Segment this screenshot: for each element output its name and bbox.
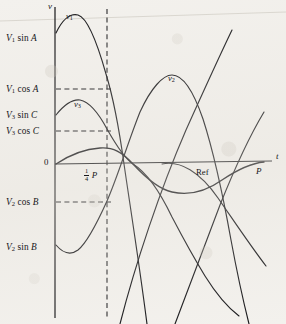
- x-marker-reference: Ref: [196, 168, 209, 177]
- curve-rising-line-b: [175, 112, 264, 324]
- origin-label: 0: [44, 158, 48, 167]
- curve-v2: [56, 75, 249, 324]
- y-label-v1-sin-a: V1 sin A: [6, 34, 37, 44]
- curve-v3: [56, 100, 239, 316]
- x-axis-label: t: [276, 152, 279, 161]
- y-label-v1-cos-a: V1 cos A: [6, 85, 38, 95]
- curve-tag-v2: v2: [168, 74, 175, 84]
- quarter-period-symbol: P: [92, 171, 98, 180]
- y-axis-label: v: [48, 2, 52, 11]
- scan-streak: [0, 12, 286, 21]
- axis-group: [55, 7, 272, 318]
- y-label-v3-cos-c: V3 cos C: [6, 127, 39, 137]
- quarter-fraction: 1 4: [84, 168, 89, 182]
- curve-rising-line-a: [120, 30, 232, 324]
- curve-tag-v3: v3: [74, 100, 81, 110]
- curve-tag-v1: v1: [66, 12, 73, 22]
- waveform-figure: V1 sin A V1 cos A V3 sin C V3 cos C V2 c…: [0, 0, 286, 324]
- y-label-v2-sin-b: V2 sin B: [6, 243, 37, 253]
- curve-falling-line: [162, 163, 266, 266]
- y-label-v2-cos-b: V2 cos B: [6, 198, 38, 208]
- x-marker-period: P: [256, 167, 262, 176]
- x-marker-quarter-period: 1 4 P: [84, 168, 97, 182]
- y-label-v3-sin-c: V3 sin C: [6, 111, 37, 121]
- waveform-plot: [0, 0, 286, 324]
